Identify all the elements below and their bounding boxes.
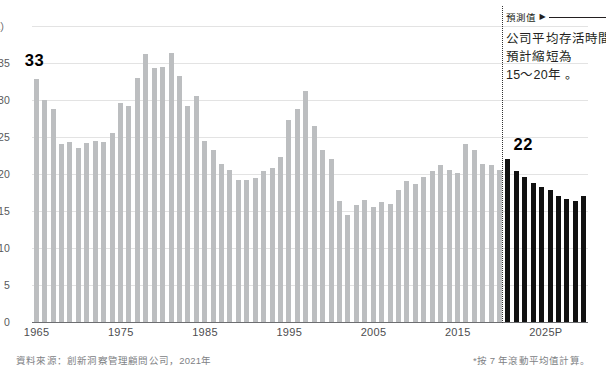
annotation-rule (549, 17, 606, 18)
bar-2008 (396, 190, 401, 322)
bar-1992 (261, 171, 266, 322)
bar-2010 (413, 184, 418, 322)
bar-1980 (160, 67, 165, 322)
bar-2001 (337, 201, 342, 322)
x-tick-label-1995: 1995 (276, 326, 302, 338)
y-tick-label-10: 10 (0, 242, 10, 254)
bar-2026 (548, 190, 553, 322)
bar-1978 (143, 54, 148, 322)
bar-1989 (236, 180, 241, 322)
x-tick-label-2005: 2005 (361, 326, 387, 338)
y-tick-label-30: 30 (0, 94, 10, 106)
bar-1991 (253, 178, 258, 322)
bar-2014 (447, 170, 452, 322)
forecast-annotation-header: 預測值 ▶ (506, 10, 606, 24)
bar-2025 (539, 187, 544, 322)
bar-2030 (581, 196, 586, 322)
history-peak-callout: 33 (25, 51, 44, 70)
bar-1993 (270, 168, 275, 322)
bar-2029 (573, 201, 578, 322)
bar-2012 (430, 171, 435, 322)
bar-2015 (455, 173, 460, 322)
bar-1997 (303, 91, 308, 322)
bar-2028 (564, 199, 569, 322)
bar-1999 (320, 150, 325, 322)
bar-1994 (278, 157, 283, 322)
forecast-annotation-line-1: 公司平均存活時間 (506, 30, 606, 48)
bar-1965 (34, 79, 39, 322)
bar-2003 (354, 205, 359, 322)
bar-1986 (211, 150, 216, 322)
y-tick-label-5: 5 (0, 279, 10, 291)
bar-1988 (227, 170, 232, 322)
forecast-annotation-line-2: 預計縮短為 (506, 48, 606, 66)
triangle-right-icon: ▶ (540, 13, 546, 21)
forecast-annotation: 預測值 ▶ 公司平均存活時間預計縮短為15～20年 。 (506, 10, 606, 84)
bar-1970 (76, 148, 81, 322)
bar-2011 (421, 177, 426, 322)
bar-2024 (531, 183, 536, 322)
forecast-annotation-line-3: 15～20年 。 (506, 66, 606, 84)
plot-area: 40（年）35302520151050 33 22 (32, 26, 588, 322)
company-lifespan-bar-chart: 40（年）35302520151050 33 22 19651975198519… (0, 0, 606, 377)
x-tick-label-2025: 2025P (529, 326, 562, 338)
x-axis-tick-labels: 1965197519851995200520152025P (32, 326, 588, 344)
bar-2020 (497, 170, 502, 322)
forecast-annotation-label: 預測值 (506, 10, 537, 24)
bar-1987 (219, 164, 224, 322)
bar-2004 (362, 200, 367, 322)
forecast-start-callout: 22 (513, 135, 532, 154)
bar-1996 (295, 109, 300, 322)
x-tick-label-1975: 1975 (108, 326, 134, 338)
bar-1975 (118, 103, 123, 322)
bar-2019 (489, 165, 494, 322)
bar-1990 (244, 180, 249, 322)
bar-1982 (177, 76, 182, 322)
bar-1972 (93, 141, 98, 322)
y-tick-label-25: 25 (0, 131, 10, 143)
bar-2009 (404, 181, 409, 322)
y-tick-label-20: 20 (0, 168, 10, 180)
forecast-divider-line (502, 6, 503, 323)
y-tick-label-40: 40（年） (0, 19, 10, 34)
bar-1966 (42, 100, 47, 322)
y-tick-label-0: 0 (0, 316, 10, 328)
bar-2007 (388, 204, 393, 322)
bar-2002 (345, 215, 350, 322)
bar-2016 (463, 144, 468, 322)
bar-1968 (59, 144, 64, 322)
forecast-annotation-body: 公司平均存活時間預計縮短為15～20年 。 (506, 30, 606, 84)
bar-2021 (505, 159, 510, 322)
bar-1969 (67, 142, 72, 322)
bar-1977 (135, 78, 140, 322)
bar-2013 (438, 165, 443, 322)
bar-1981 (169, 53, 174, 322)
source-note: 資料來源：創新洞察管理顧問公司，2021年 (16, 353, 211, 367)
bar-1976 (126, 106, 131, 322)
bar-1974 (110, 133, 115, 322)
bar-1971 (84, 143, 89, 322)
x-tick-label-2015: 2015 (445, 326, 471, 338)
gridline-0 (32, 322, 588, 323)
bar-1979 (152, 68, 157, 322)
x-tick-label-1965: 1965 (24, 326, 50, 338)
bar-1984 (194, 96, 199, 322)
bar-1985 (202, 141, 207, 322)
bar-2023 (522, 177, 527, 322)
bar-2027 (556, 196, 561, 322)
bar-2018 (480, 164, 485, 322)
bar-1967 (51, 109, 56, 322)
x-tick-label-1985: 1985 (192, 326, 218, 338)
bar-1995 (286, 120, 291, 322)
bar-2017 (472, 150, 477, 322)
bar-2005 (371, 207, 376, 322)
y-tick-label-15: 15 (0, 205, 10, 217)
bar-2000 (329, 159, 334, 322)
method-note: *按 7 年滾動平均值計算。 (473, 353, 590, 367)
bar-series-container (32, 26, 588, 322)
y-tick-label-35: 35 (0, 57, 10, 69)
bar-1998 (312, 126, 317, 322)
bar-2022 (514, 171, 519, 322)
bar-2006 (379, 202, 384, 322)
bar-1983 (185, 106, 190, 322)
